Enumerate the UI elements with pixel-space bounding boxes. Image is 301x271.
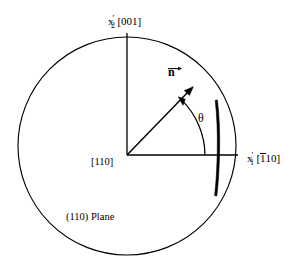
horizontal-axis-index-rest: 10 [266,152,277,164]
angle-arc [181,100,205,155]
horizontal-axis-barred-digit: 1 [260,153,266,164]
normal-vector-symbol-letter: n [168,65,175,79]
horizontal-axis-bracket-close: ] [277,152,281,164]
normal-vector-label: n [168,66,175,78]
plane-caption-label: (110) Plane [66,212,114,223]
horizontal-axis-label: x′1[110] [247,151,280,167]
vertical-axis-label: x′2[001] [108,14,141,30]
crystallographic-plane-diagram: x′2[001] x′1[110] [110] (110) Plane n θ [0,0,301,271]
normal-vector-symbol-group: n [168,66,175,78]
origin-direction-label: [110] [91,157,113,168]
horizontal-axis-subscript: 1 [250,158,254,167]
vertical-axis-direction-index: [001] [117,15,141,27]
vertical-axis-subscript: 2 [111,21,115,30]
diagram-canvas [0,0,301,271]
plane-edge-bar [215,100,220,196]
angle-theta-label: θ [198,112,204,124]
